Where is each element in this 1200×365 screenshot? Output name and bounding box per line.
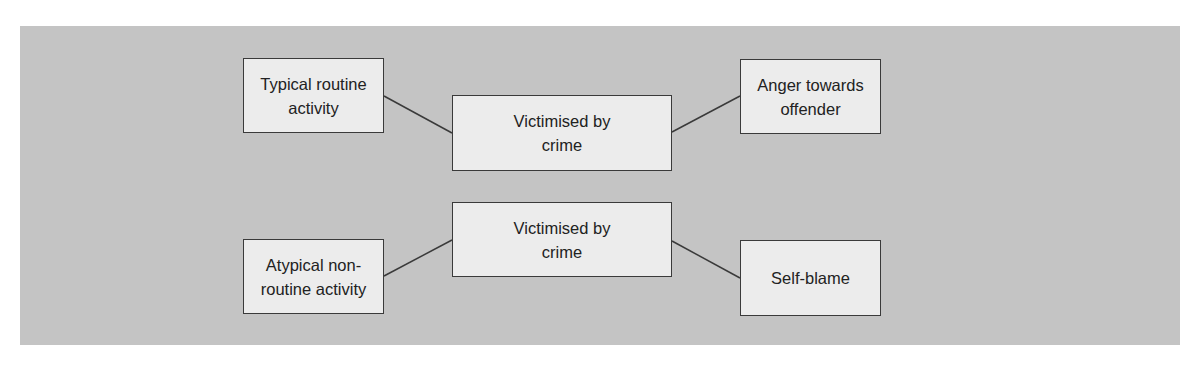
edge-atypical-to-victim-bottom	[384, 240, 452, 276]
node-label: Victimised by crime	[502, 216, 622, 264]
edge-victim-bottom-to-selfblame	[672, 241, 740, 278]
connector-lines	[0, 0, 1200, 365]
node-label: Anger towards offender	[748, 73, 873, 121]
node-atypical-non-routine-activity: Atypical non-routine activity	[243, 239, 384, 314]
edge-typical-to-victim-top	[384, 96, 452, 133]
node-anger-towards-offender: Anger towards offender	[740, 59, 881, 134]
node-victimised-by-crime-bottom: Victimised by crime	[452, 202, 672, 277]
node-self-blame: Self-blame	[740, 240, 881, 316]
node-label: Atypical non-routine activity	[251, 253, 376, 301]
node-victimised-by-crime-top: Victimised by crime	[452, 95, 672, 171]
node-label: Self-blame	[771, 266, 850, 290]
node-label: Victimised by crime	[502, 109, 622, 157]
edge-victim-top-to-anger	[672, 96, 740, 132]
node-typical-routine-activity: Typical routine activity	[243, 58, 384, 133]
node-label: Typical routine activity	[251, 72, 376, 120]
